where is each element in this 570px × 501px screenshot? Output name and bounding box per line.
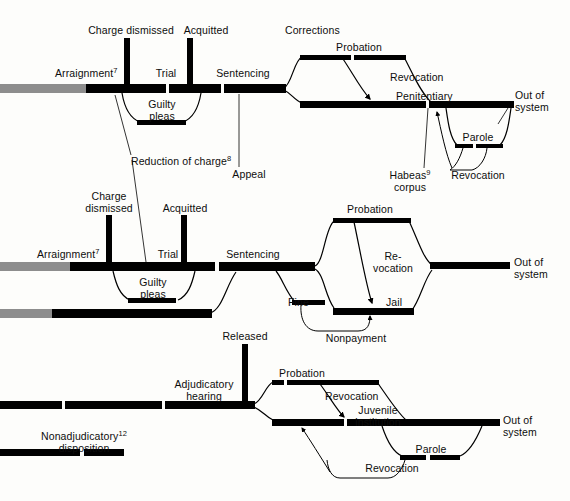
juv-parole-right-curve xyxy=(460,426,482,456)
label-felony-sentencing: Sentencing xyxy=(216,67,270,79)
label-juv-institution-1: Juvenile xyxy=(358,404,397,416)
felony-parole-bar-b xyxy=(476,144,503,148)
label-felony-guilty-pleas-2: pleas xyxy=(149,110,175,122)
felony-main-line-b xyxy=(169,84,221,93)
felony-revocation-arrow xyxy=(343,59,370,99)
felony-entry-line xyxy=(0,84,88,93)
misd-entry-line xyxy=(0,262,72,271)
label-misd-nonpayment: Nonpayment xyxy=(326,332,387,344)
label-misd-out-of-system-2: system xyxy=(514,268,548,280)
label-felony-guilty-pleas-1: Guilty xyxy=(148,98,175,110)
juv-parole-left-curve xyxy=(382,426,402,456)
misdemeanor-track-graphics xyxy=(0,160,510,331)
misd-lower-entry-line xyxy=(0,309,54,318)
label-felony-revocation: Revocation xyxy=(390,71,444,83)
misd-probation-rejoin xyxy=(409,221,432,265)
felony-guilty-pleas-right-curve xyxy=(183,93,201,122)
label-juv-nonadjudicatory-1: Nonadjudicatory12 xyxy=(41,430,127,442)
label-misd-arraignment: Arraignment7 xyxy=(37,248,100,260)
felony-reduction-leader xyxy=(115,95,131,155)
footnote-marker-12: 12 xyxy=(118,429,127,438)
juv-probation-bar-b xyxy=(287,380,379,385)
label-misd-jail: Jail xyxy=(386,296,402,308)
label-misd-guilty-pleas-2: pleas xyxy=(140,288,166,300)
misd-trial-leader xyxy=(132,160,146,262)
felony-parole-right-curve xyxy=(500,108,511,145)
juv-split-down xyxy=(254,407,273,420)
felony-charge-dismissed-branch xyxy=(124,38,130,88)
label-juv-nonadjudicatory-2: disposition xyxy=(59,442,110,454)
felony-parole-revocation-arrow xyxy=(437,112,452,168)
felony-track-graphics xyxy=(0,38,514,170)
label-juv-adjudicatory-1: Adjudicatory xyxy=(175,378,234,390)
felony-penitentiary-line-a xyxy=(300,101,426,108)
misd-lower-merge-curve xyxy=(210,272,236,313)
felony-probation-bar-b xyxy=(354,55,406,60)
felony-penitentiary-line-b xyxy=(429,101,514,108)
label-misd-out-of-system-1: Out of xyxy=(514,256,543,268)
misd-lower-line xyxy=(52,309,212,318)
label-felony-out-of-system-2: system xyxy=(515,101,549,113)
footnote-marker-9: 9 xyxy=(426,168,430,177)
label-felony-habeas-2: corpus xyxy=(394,181,426,193)
misd-jail-rejoin xyxy=(412,270,432,310)
juv-parole-bar-b xyxy=(430,455,460,460)
label-felony-corrections: Corrections xyxy=(285,24,340,36)
label-felony-parole: Parole xyxy=(463,131,494,143)
justice-system-flowchart: Charge dismissed Acquitted Arraignment7 … xyxy=(0,0,570,501)
felony-acquitted-branch xyxy=(187,38,193,88)
felony-habeas-leader xyxy=(424,108,428,168)
label-juv-parole: Parole xyxy=(416,443,447,455)
juv-probation-bar-a xyxy=(272,380,284,385)
label-felony-reduction-of-charge: Reduction of charge8 xyxy=(131,155,231,167)
misd-acquitted-branch xyxy=(181,215,187,265)
label-felony-penitentiary: Penitentiary xyxy=(396,90,453,102)
footnote-marker-7: 7 xyxy=(113,66,117,75)
label-felony-habeas-1: Habeas9 xyxy=(389,169,430,181)
juv-main-line-b xyxy=(65,401,162,409)
footnote-marker-7b: 7 xyxy=(95,247,99,256)
misd-guilty-pleas-left-curve xyxy=(113,271,130,300)
label-juv-parole-revocation: Revocation xyxy=(365,462,419,474)
label-felony-parole-revocation: Revocation xyxy=(451,169,505,181)
juvenile-track-graphics xyxy=(0,344,500,478)
juv-parole-revocation-arrow xyxy=(302,428,330,472)
juv-main-line-a xyxy=(0,401,62,409)
label-misd-charge-dismissed-2: dismissed xyxy=(85,202,133,214)
felony-corrections-split-up xyxy=(284,57,302,88)
misd-jail-line xyxy=(333,308,414,315)
label-juv-probation: Probation xyxy=(279,367,325,379)
label-felony-charge-dismissed: Charge dismissed xyxy=(88,24,174,36)
label-misd-revocation-1: Re- xyxy=(384,250,401,262)
felony-parole-left-curve xyxy=(446,108,457,145)
label-felony-trial: Trial xyxy=(156,67,177,79)
label-juv-out-of-system-1: Out of xyxy=(503,414,532,426)
felony-guilty-pleas-left-curve xyxy=(122,93,140,122)
felony-corrections-split-down xyxy=(284,90,302,103)
label-misd-sentencing: Sentencing xyxy=(226,248,280,260)
label-juv-adjudicatory-2: hearing xyxy=(186,390,222,402)
label-misd-revocation-2: vocation xyxy=(373,262,413,274)
label-misd-trial: Trial xyxy=(158,248,179,260)
label-felony-out-of-system-1: Out of xyxy=(515,89,544,101)
misd-revocation-arrow xyxy=(354,222,372,303)
juv-split-up xyxy=(254,382,273,404)
label-misd-charge-dismissed-1: Charge xyxy=(91,190,126,202)
label-misd-probation: Probation xyxy=(347,203,393,215)
label-felony-appeal: Appeal xyxy=(232,168,265,180)
footnote-marker-8: 8 xyxy=(227,154,231,163)
label-juv-institution-2: institution xyxy=(355,416,400,428)
label-juv-released: Released xyxy=(222,330,267,342)
juv-main-line-c xyxy=(165,401,255,409)
label-misd-fine: Fine xyxy=(288,296,309,308)
juv-institution-line-a xyxy=(272,419,344,426)
misd-main-line-a xyxy=(70,262,215,271)
felony-main-line-c xyxy=(224,84,286,93)
misd-out-of-system-line xyxy=(430,262,510,269)
label-felony-acquitted: Acquitted xyxy=(184,24,229,36)
juv-parole-bar-a xyxy=(400,455,426,460)
felony-parole-revocation-loop xyxy=(450,148,487,170)
misd-probation-bar xyxy=(333,218,411,223)
felony-parole-bar-a xyxy=(455,144,473,148)
felony-out-of-system-leader xyxy=(498,108,508,124)
